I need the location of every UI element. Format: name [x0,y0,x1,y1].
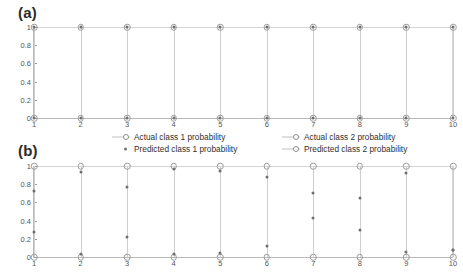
stem-line [267,166,268,257]
legend-line-circle-icon [282,132,300,142]
y-tick-label-b: 0.6 [21,198,31,207]
legend-label: Actual class 1 probability [134,132,225,142]
stem-line [453,27,454,118]
data-point [265,26,268,29]
data-point [219,117,222,120]
x-tick-label-b: 1 [32,259,36,268]
y-tick-label-b: 0.2 [21,234,31,243]
data-point [126,185,129,188]
y-tick-label-a: 0.4 [21,77,31,86]
data-point [219,26,222,29]
x-tick-label-a: 9 [404,120,408,129]
data-point [172,26,175,29]
data-point [405,26,408,29]
data-point [124,163,131,170]
x-tick-label-a: 7 [311,120,315,129]
data-point [265,117,268,120]
stem-line [313,166,314,257]
data-point [358,228,361,231]
stem-line [174,166,175,257]
stem-line [220,166,221,257]
data-point [403,163,410,170]
data-point [126,117,129,120]
data-point [312,216,315,219]
data-point [312,192,315,195]
legend-line-circle-icon [282,144,300,154]
y-tick-label-a: 0.8 [21,41,31,50]
legend-item[interactable]: Predicted class 1 probability [112,143,237,154]
stem-line [34,166,35,257]
legend-line-circle-icon [112,132,130,142]
data-point [312,26,315,29]
x-tick-label-a: 2 [78,120,82,129]
x-tick-label-a: 10 [449,120,457,129]
data-point [405,117,408,120]
stem-line [81,166,82,257]
y-tick-label-a: 0.6 [21,59,31,68]
data-point [357,254,364,261]
x-tick-label-a: 1 [32,120,36,129]
panel-a-label: (a) [18,4,37,21]
x-tick-label-b: 8 [358,259,362,268]
data-point [405,172,408,175]
data-point [358,117,361,120]
data-point [358,196,361,199]
data-point [265,175,268,178]
stem-line [313,27,314,118]
x-tick-label-b: 9 [404,259,408,268]
data-point [79,171,82,174]
data-point [312,117,315,120]
data-point [450,254,457,261]
data-point [403,254,410,261]
data-point [31,163,38,170]
data-point [77,163,84,170]
stem-line [220,27,221,118]
stem-line [127,27,128,118]
stem-line [34,27,35,118]
x-tick-label-b: 7 [311,259,315,268]
legend-column-1: Actual class 1 probabilityPredicted clas… [112,131,237,155]
data-point [33,231,36,234]
data-point [265,245,268,248]
plot-b-frame-top [34,166,453,167]
data-point [124,254,131,261]
x-tick-label-b: 3 [125,259,129,268]
panel-b-label: (b) [18,142,38,159]
data-point [126,235,129,238]
stem-line [360,166,361,257]
dot-icon [124,147,127,150]
stem-line [453,166,454,257]
stem-line [267,27,268,118]
data-point [219,169,222,172]
y-tick-label-a: 0.2 [21,95,31,104]
data-point [33,117,36,120]
legend-label: Predicted class 2 probability [304,144,407,154]
data-point [172,253,175,256]
open-circle-icon [123,134,129,140]
figure-root: (a) 00.20.40.60.8112345678910 Actual cla… [0,0,463,275]
data-point [33,26,36,29]
x-tick-label-b: 4 [172,259,176,268]
x-tick-label-a: 6 [265,120,269,129]
data-point [79,253,82,256]
stem-line [81,27,82,118]
data-point [33,189,36,192]
x-tick-label-b: 5 [218,259,222,268]
x-tick-label-a: 8 [358,120,362,129]
x-tick-label-b: 6 [265,259,269,268]
x-tick-label-a: 5 [218,120,222,129]
legend-item[interactable]: Actual class 1 probability [112,131,237,142]
legend-column-2: Actual class 2 probabilityPredicted clas… [282,131,407,155]
x-tick-label-b: 2 [78,259,82,268]
data-point [450,163,457,170]
legend-item[interactable]: Actual class 2 probability [282,131,407,142]
open-circle-icon [293,134,299,140]
data-point [357,163,364,170]
legend-dot-icon [112,144,130,154]
data-point [452,26,455,29]
legend-item[interactable]: Predicted class 2 probability [282,143,407,154]
data-point [264,254,271,261]
data-point [79,117,82,120]
stem-line [127,166,128,257]
data-point [264,163,271,170]
